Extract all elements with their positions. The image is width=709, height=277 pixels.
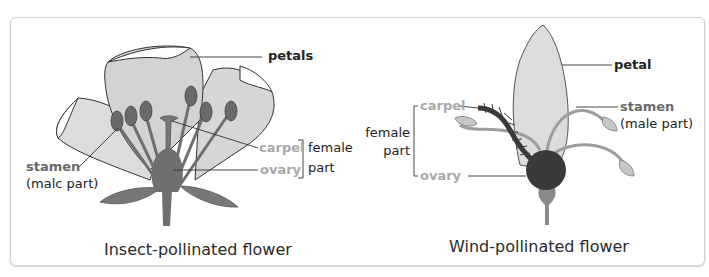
label-stamen-note-insect: (malc part) <box>26 176 98 192</box>
label-ovary-wind: ovary <box>420 168 461 184</box>
left-sepal <box>100 188 160 204</box>
caption-wind: Wind-pollinated flower <box>449 237 629 256</box>
right-sepal <box>180 186 238 207</box>
caption-insect: Insect-pollinated flower <box>104 240 292 259</box>
label-female-wind-2: part <box>360 143 410 159</box>
label-female-insect-2: part <box>308 160 335 176</box>
flower-illustrations <box>0 0 709 277</box>
label-stamen-note-wind: (male part) <box>620 116 693 132</box>
wind-ovary <box>526 150 566 190</box>
label-ovary-insect: ovary <box>260 162 301 178</box>
label-female-wind-1: female <box>360 125 410 141</box>
label-stamen-insect: stamen <box>26 159 80 175</box>
label-petals: petals <box>268 48 313 64</box>
wind-flower <box>414 25 634 225</box>
insect-stalk <box>162 190 172 226</box>
label-carpel-wind: carpel <box>420 98 465 114</box>
label-carpel-insect: carpel <box>259 140 304 156</box>
label-stamen-wind: stamen <box>620 99 674 115</box>
label-female-insect-1: female <box>308 140 353 156</box>
label-petal: petal <box>614 57 652 73</box>
insect-flower <box>57 46 303 226</box>
